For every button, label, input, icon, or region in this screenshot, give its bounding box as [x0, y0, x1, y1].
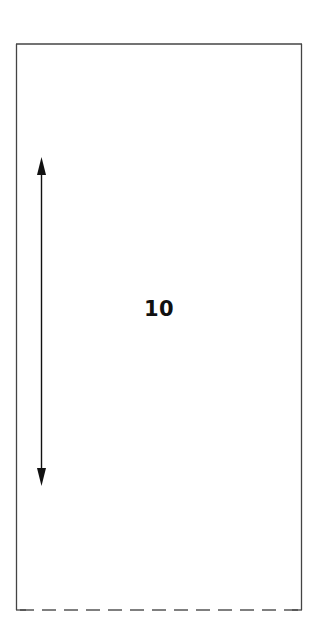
rectangle-shape — [16, 44, 302, 610]
arrow-down-head-icon — [37, 468, 46, 486]
diagram-canvas — [0, 0, 332, 643]
dimension-label: 10 — [144, 297, 174, 321]
arrow-up-head-icon — [37, 157, 46, 175]
double-arrow-icon — [37, 157, 46, 486]
